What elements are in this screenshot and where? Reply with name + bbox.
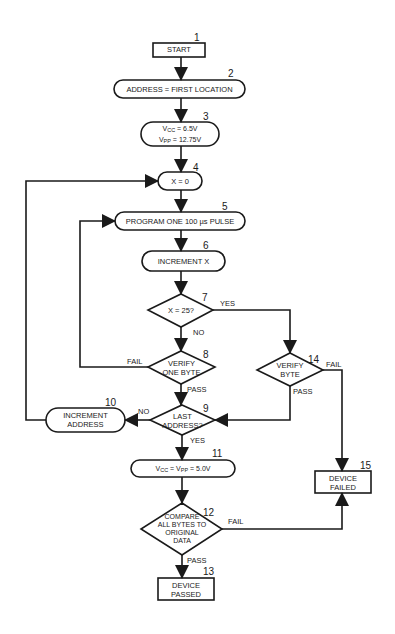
edge-label-x25-no: NO <box>193 329 204 337</box>
edge-label-x25-yes: YES <box>220 300 235 308</box>
edge-label-compare-pass: PASS <box>187 557 206 565</box>
vcc-vpp-5v-label: VCC = VPP = 5.0V <box>131 464 235 475</box>
edge-label-verify-byte-pass: PASS <box>293 388 312 396</box>
step-number-3: 3 <box>203 112 209 122</box>
device-failed-label: DEVICEFAILED <box>315 474 371 492</box>
last-address-label: LASTADDRESS? <box>150 412 215 430</box>
compare-bytes-label: COMPAREALL BYTES TOORIGINALDATA <box>141 513 223 545</box>
step-number-11: 11 <box>212 449 222 459</box>
increment-x-label: INCREMENT X <box>142 257 225 266</box>
verify-byte-label: VERIFYBYTE <box>257 361 323 379</box>
edge-label-last-yes: YES <box>190 437 205 445</box>
verify-one-byte-label: VERIFYONE BYTE <box>148 359 215 377</box>
step-number-6: 6 <box>203 241 209 251</box>
step-number-4: 4 <box>193 163 199 173</box>
edge-label-compare-fail: FAIL <box>228 518 243 526</box>
program-pulse-label: PROGRAM ONE 100 µs PULSE <box>115 217 245 226</box>
edge-label-verify-one-pass: PASS <box>187 386 206 394</box>
x-zero-label: X = 0 <box>158 177 202 186</box>
edge-label-verify-one-fail: FAIL <box>127 358 142 366</box>
step-number-2: 2 <box>228 69 234 79</box>
step-number-1: 1 <box>194 33 200 43</box>
device-passed-label: DEVICEPASSED <box>158 581 214 599</box>
edge-label-verify-byte-fail: FAIL <box>326 361 341 369</box>
step-number-5: 5 <box>222 202 228 212</box>
set-voltages-label: VCC = 6.5V VPP = 12.75V <box>141 124 219 146</box>
start-label: START <box>153 45 205 54</box>
increment-address-label: INCREMENTADDRESS <box>46 411 125 429</box>
step-number-7: 7 <box>202 293 208 303</box>
step-number-13: 13 <box>203 567 214 577</box>
step-number-15: 15 <box>360 461 371 471</box>
step-number-10: 10 <box>105 398 116 408</box>
edge-label-last-no: NO <box>138 408 149 416</box>
address-first-label: ADDRESS = FIRST LOCATION <box>114 85 245 94</box>
x-equals-25-label: X = 25? <box>148 306 214 315</box>
